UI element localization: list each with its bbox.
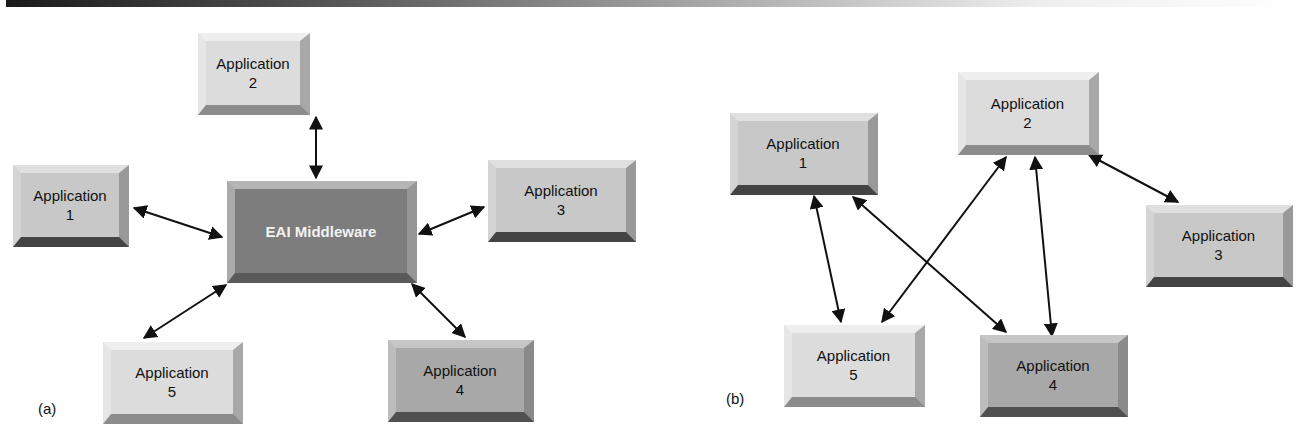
- node-label: Application: [817, 346, 890, 365]
- node-label: Application: [216, 54, 289, 73]
- node-number: 5: [817, 365, 890, 384]
- node-label: Application: [1016, 356, 1089, 375]
- edge-hub-app4: [412, 284, 465, 337]
- node-number: 2: [991, 113, 1064, 132]
- node-number: 5: [135, 382, 208, 401]
- panel-b-application-5: Application5: [784, 325, 925, 407]
- edge-app2-app3: [1089, 155, 1178, 202]
- panel-a-label: (a): [38, 400, 56, 417]
- node-label: Application: [423, 361, 496, 380]
- node-label: Application: [766, 134, 839, 153]
- edge-hub-app1: [134, 208, 222, 237]
- edge-app1-app5: [814, 196, 841, 322]
- panel-b-label: (b): [726, 390, 744, 407]
- node-number: 4: [1016, 375, 1089, 394]
- panel-a-application-1: Application1: [13, 165, 129, 247]
- node-number: 3: [1182, 245, 1255, 264]
- panel-a-application-3: Application3: [488, 160, 636, 242]
- edge-hub-app5: [144, 285, 226, 338]
- node-label: Application: [524, 181, 597, 200]
- panel-b-application-4: Application4: [980, 335, 1128, 417]
- node-number: 1: [766, 153, 839, 172]
- panel-b-application-1: Application1: [730, 113, 878, 195]
- edge-app1-app4: [853, 197, 1006, 332]
- panel-a-eai-middleware-hub: EAI Middleware: [227, 181, 417, 283]
- node-label: Application: [991, 94, 1064, 113]
- node-label: Application: [135, 363, 208, 382]
- edge-hub-app3: [419, 207, 484, 234]
- node-label: Application: [1182, 226, 1255, 245]
- node-number: 4: [423, 380, 496, 399]
- node-label: Application: [33, 186, 106, 205]
- panel-a-application-4: Application4: [388, 340, 534, 422]
- edge-app2-app4: [1035, 157, 1052, 336]
- panel-b-application-3: Application3: [1146, 205, 1293, 287]
- panel-b-application-2: Application2: [958, 72, 1099, 155]
- node-number: 1: [33, 205, 106, 224]
- panel-a-application-2: Application2: [198, 33, 310, 115]
- hub-label: EAI Middleware: [266, 222, 377, 241]
- node-number: 2: [216, 73, 289, 92]
- node-number: 3: [524, 200, 597, 219]
- panel-a-application-5: Application5: [103, 342, 243, 424]
